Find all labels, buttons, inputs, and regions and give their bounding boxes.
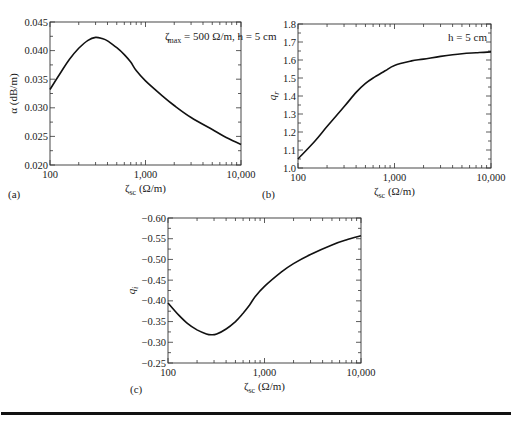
- data-curve: [298, 52, 491, 159]
- plot-frame: [168, 218, 361, 363]
- y-tick-label: 0.030: [24, 102, 48, 113]
- y-tick-label: 1.0: [283, 163, 296, 174]
- chart-panel-b: 1001,00010,0001.01.11.21.31.41.51.61.71.…: [262, 19, 505, 202]
- y-tick-label: 1.4: [283, 91, 297, 102]
- y-tick-label: −0.50: [142, 254, 166, 265]
- x-tick-label: 100: [290, 172, 306, 183]
- y-tick-label: −0.45: [142, 275, 166, 286]
- panel-label: (b): [262, 188, 275, 201]
- plot-frame: [50, 22, 241, 165]
- y-tick-label: 1.8: [283, 19, 296, 30]
- x-tick-label: 10,000: [477, 172, 506, 183]
- data-curve: [168, 236, 361, 335]
- y-tick-label: 1.5: [283, 73, 296, 84]
- x-axis-label: ζsc (Ω/m): [374, 185, 415, 200]
- annotation-height: h = 5 cm: [448, 31, 487, 43]
- x-tick-label: 10,000: [227, 169, 256, 180]
- annotation-zeta-max: ζmax = 500 Ω/m, h = 5 cm: [165, 30, 277, 45]
- plot-frame: [298, 24, 491, 168]
- y-tick-label: 0.025: [24, 131, 48, 142]
- y-tick-label: 1.2: [283, 127, 296, 138]
- x-tick-label: 100: [160, 367, 176, 378]
- y-tick-label: 0.040: [24, 45, 48, 56]
- x-axis-label: ζsc (Ω/m): [125, 182, 166, 197]
- x-tick-label: 1,000: [383, 172, 407, 183]
- y-tick-label: −0.40: [142, 295, 166, 306]
- y-axis-label: qr: [266, 91, 281, 101]
- y-tick-label: 0.045: [24, 17, 48, 28]
- y-tick-label: 1.1: [283, 145, 296, 156]
- y-tick-label: −0.55: [142, 233, 166, 244]
- y-axis-label: α (dB/m): [7, 73, 20, 114]
- caption-divider: [1, 412, 511, 415]
- y-axis-label: qi: [125, 287, 140, 295]
- chart-panel-a: 1001,00010,0000.0200.0250.0300.0350.0400…: [8, 17, 255, 202]
- x-tick-label: 100: [42, 169, 58, 180]
- x-tick-label: 10,000: [347, 367, 376, 378]
- y-tick-label: −0.35: [142, 316, 166, 327]
- y-tick-label: 1.6: [283, 55, 296, 66]
- chart-panel-c: 1001,00010,000−0.25−0.30−0.35−0.40−0.45−…: [130, 213, 375, 397]
- y-tick-label: −0.60: [142, 213, 166, 224]
- x-tick-label: 1,000: [253, 367, 277, 378]
- x-axis-label: ζsc (Ω/m): [244, 380, 285, 395]
- y-tick-label: 0.020: [24, 160, 48, 171]
- y-tick-label: −0.25: [142, 358, 166, 369]
- y-tick-label: 0.035: [24, 74, 48, 85]
- y-tick-label: −0.30: [142, 337, 166, 348]
- y-tick-label: 1.3: [283, 109, 296, 120]
- figure-canvas: 1001,00010,0000.0200.0250.0300.0350.0400…: [0, 0, 517, 423]
- x-tick-label: 1,000: [134, 169, 158, 180]
- panel-label: (c): [130, 383, 143, 396]
- panel-label: (a): [8, 188, 21, 201]
- data-curve: [50, 37, 241, 144]
- y-tick-label: 1.7: [283, 37, 296, 48]
